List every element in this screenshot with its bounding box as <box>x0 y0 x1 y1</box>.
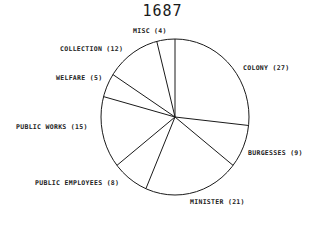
label-collection: COLLECTION (12) <box>60 45 123 53</box>
label-minister: MINISTER (21) <box>190 198 245 206</box>
label-burgesses: BURGESSES (9) <box>248 149 303 157</box>
label-misc: MISC (4) <box>133 27 167 35</box>
label-colony: COLONY (27) <box>243 64 289 72</box>
label-public-employees: PUBLIC EMPLOYEES (8) <box>35 179 119 187</box>
label-welfare: WELFARE (5) <box>56 74 102 82</box>
label-public-works: PUBLIC WORKS (15) <box>16 123 88 131</box>
